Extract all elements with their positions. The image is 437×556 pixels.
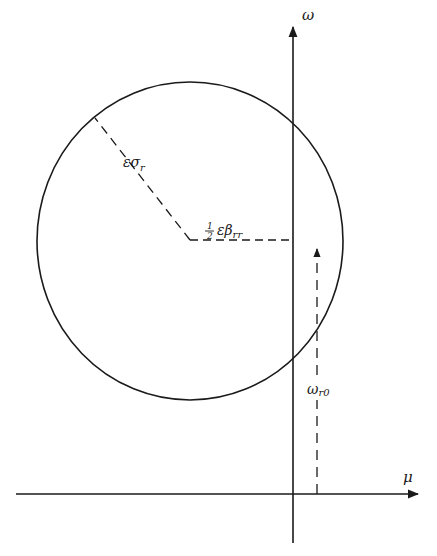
stability-circle	[37, 82, 343, 400]
offset-label: 1 2 εβrr	[205, 221, 243, 241]
radius-label: εσr	[123, 154, 146, 173]
radius-dashed-line	[95, 118, 190, 240]
svg-text:1: 1	[207, 221, 213, 231]
svg-text:2: 2	[206, 231, 213, 241]
diagram-canvas: ω μ εσr 1 2 εβrr ωr0	[0, 0, 437, 556]
omega-axis-label: ω	[302, 6, 314, 24]
svg-text:εβrr: εβrr	[217, 222, 243, 240]
mu-axis-label: μ	[403, 468, 413, 486]
